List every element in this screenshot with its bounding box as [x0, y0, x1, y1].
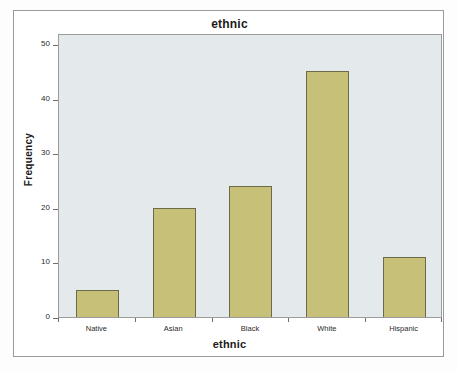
x-axis-tick-label: Asian — [164, 324, 183, 333]
chart-frame: ethnic Frequency 01020304050 NativeAsian… — [13, 10, 444, 357]
y-axis-title: Frequency — [23, 100, 34, 220]
plot-area — [58, 34, 442, 318]
bar — [229, 186, 272, 317]
x-axis-tick-mark — [58, 318, 59, 322]
y-axis: Frequency 01020304050 — [14, 34, 58, 319]
chart-title: ethnic — [14, 17, 445, 31]
x-axis-tick-mark — [135, 318, 136, 322]
x-axis-tick-mark — [441, 318, 442, 322]
y-axis-tick-mark — [53, 45, 58, 46]
y-axis-tick-label: 20 — [41, 203, 50, 213]
y-axis-tick-mark — [53, 209, 58, 210]
y-axis-tick-label: 30 — [41, 148, 50, 158]
bar — [76, 290, 119, 317]
x-axis-tick-label: Black — [241, 324, 259, 333]
x-axis-tick-mark — [288, 318, 289, 322]
x-axis-title: ethnic — [14, 338, 445, 350]
x-axis-tick-label: White — [317, 324, 336, 333]
y-axis-tick-mark — [53, 154, 58, 155]
y-axis-tick-label: 10 — [41, 257, 50, 267]
bars-layer — [59, 35, 441, 317]
bar — [306, 71, 349, 317]
x-axis-tick-mark — [365, 318, 366, 322]
x-axis-tick-mark — [212, 318, 213, 322]
y-axis-tick-mark — [53, 100, 58, 101]
y-axis-tick-mark — [53, 263, 58, 264]
y-axis-tick-label: 40 — [41, 94, 50, 104]
x-axis-tick-label: Hispanic — [389, 324, 418, 333]
y-axis-tick-label: 0 — [46, 312, 50, 322]
y-axis-tick-label: 50 — [41, 39, 50, 49]
bar — [153, 208, 196, 317]
bar — [383, 257, 426, 317]
x-axis-tick-label: Native — [86, 324, 107, 333]
